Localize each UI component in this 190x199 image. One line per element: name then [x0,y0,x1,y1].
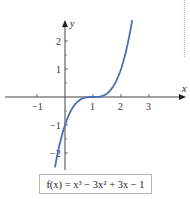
y-axis-label: y [69,18,75,29]
x-tick-label-1: 1 [90,101,95,112]
function-curve [55,20,132,167]
y-axis-arrow-icon [62,20,68,27]
y-tick-label-1: 1 [56,64,61,75]
y-tick-label-neg1: −1 [50,120,61,131]
x-axis-arrow-icon [179,94,186,100]
y-tick-label-2: 2 [56,36,61,47]
formula-box: f(x) = x³ − 3x² + 3x − 1 [39,174,152,194]
x-tick-label-2: 2 [118,101,123,112]
x-axis-label: x [181,83,187,94]
y-axis [62,20,68,170]
x-tick-label-3: 3 [146,101,151,112]
x-tick-label-neg1: −1 [32,101,43,112]
function-plot: x y −1 1 2 3 2 1 −1 −2 [0,0,190,199]
formula-text: f(x) = x³ − 3x² + 3x − 1 [46,179,144,190]
